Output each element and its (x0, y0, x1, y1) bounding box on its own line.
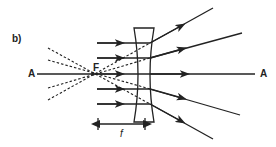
focal-point-dot (91, 72, 95, 76)
diverging-lens-diagram (0, 0, 276, 147)
